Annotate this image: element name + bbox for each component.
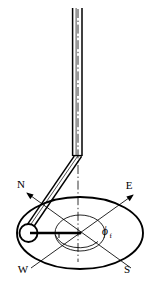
figure-container: N E W S ϕ f [0, 0, 158, 287]
label-south: S [124, 263, 130, 275]
label-north: N [17, 178, 25, 190]
label-east: E [126, 179, 133, 191]
compass-axis-north-south [27, 193, 131, 268]
north-arrowhead-icon [26, 192, 33, 199]
label-azimuth-angle-symbol: ϕ [102, 225, 108, 238]
label-west: W [18, 263, 29, 275]
east-arrowhead-icon [126, 194, 133, 201]
centre-point-dot [79, 232, 82, 235]
label-azimuth-angle-subscript: f [110, 232, 113, 240]
azimuth-diagram: N E W S ϕ f [0, 0, 158, 287]
compass-axis-east-west [31, 195, 133, 268]
